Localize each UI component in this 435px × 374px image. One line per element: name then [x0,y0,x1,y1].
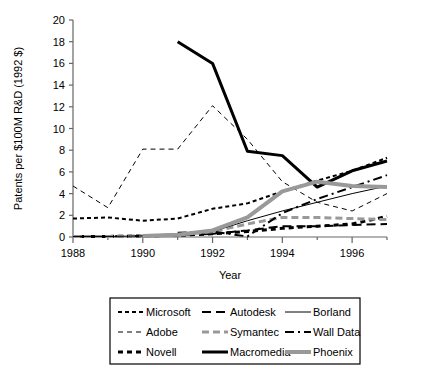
x-tick-label: 1994 [270,247,294,259]
y-axis-title: Patents per $100M R&D (1992 $) [12,47,24,210]
chart-figure: 0246810121416182019881990199219941996Yea… [0,0,435,374]
patents-per-rd-line-chart: 0246810121416182019881990199219941996Yea… [0,0,435,374]
y-tick-label: 4 [59,188,65,200]
legend-label-novell: Novell [146,346,177,358]
legend-label-microsoft: Microsoft [146,306,191,318]
series-line-macromedia [178,42,387,187]
legend-item-novell[interactable]: Novell [118,346,177,358]
legend-label-phoenix: Phoenix [313,346,353,358]
y-tick-label: 0 [59,231,65,243]
y-tick-label: 12 [53,101,65,113]
legend-label-adobe: Adobe [146,326,178,338]
legend-label-macromedia: Macromedia [230,346,291,358]
legend-label-autodesk: Autodesk [230,306,276,318]
x-tick-group: 19881990199219941996 [61,237,387,259]
legend-item-adobe[interactable]: Adobe [118,326,178,338]
x-tick-label: 1988 [61,247,85,259]
series-group [73,42,387,237]
series-line-microsoft [73,158,387,221]
legend-item-borland[interactable]: Borland [285,306,351,318]
y-tick-label: 6 [59,166,65,178]
y-tick-label: 8 [59,144,65,156]
y-tick-label: 18 [53,36,65,48]
legend: MicrosoftAutodeskBorlandAdobeSymantecWal… [110,298,361,364]
legend-label-borland: Borland [313,306,351,318]
y-tick-label: 16 [53,57,65,69]
x-tick-label: 1990 [131,247,155,259]
y-tick-label: 14 [53,79,65,91]
legend-item-autodesk[interactable]: Autodesk [202,306,276,318]
x-axis-title: Year [219,269,242,281]
legend-item-macromedia[interactable]: Macromedia [202,346,291,358]
y-tick-group: 02468101214161820 [53,14,73,243]
legend-label-symantec: Symantec [230,326,279,338]
series-line-phoenix [143,182,387,236]
y-tick-label: 20 [53,14,65,26]
legend-item-symantec[interactable]: Symantec [202,326,279,338]
axes-group [73,20,387,237]
y-tick-label: 10 [53,123,65,135]
legend-item-wall-data[interactable]: Wall Data [285,326,361,338]
y-tick-label: 2 [59,209,65,221]
x-tick-label: 1992 [200,247,224,259]
series-line-adobe [73,106,387,211]
legend-item-microsoft[interactable]: Microsoft [118,306,191,318]
legend-item-phoenix[interactable]: Phoenix [285,346,353,358]
x-tick-label: 1996 [340,247,364,259]
legend-label-wall-data: Wall Data [313,326,361,338]
